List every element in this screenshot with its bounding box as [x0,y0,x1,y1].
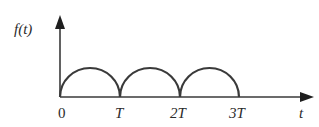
y-axis-label: f(t) [14,21,32,38]
y-axis-arrow-icon [55,15,65,29]
tick-label-3T: 3T [228,105,247,121]
tick-label-T: T [115,105,125,121]
x-axis-arrow-icon [300,92,314,102]
arc-period-3 [180,68,239,97]
waveform-diagram: f(t) 0 T 2T 3T t [0,0,319,127]
arc-period-1 [60,68,120,97]
tick-label-2T: 2T [170,105,188,121]
x-axis-label: t [299,105,304,121]
arc-period-2 [120,68,180,97]
tick-label-0: 0 [58,105,66,121]
